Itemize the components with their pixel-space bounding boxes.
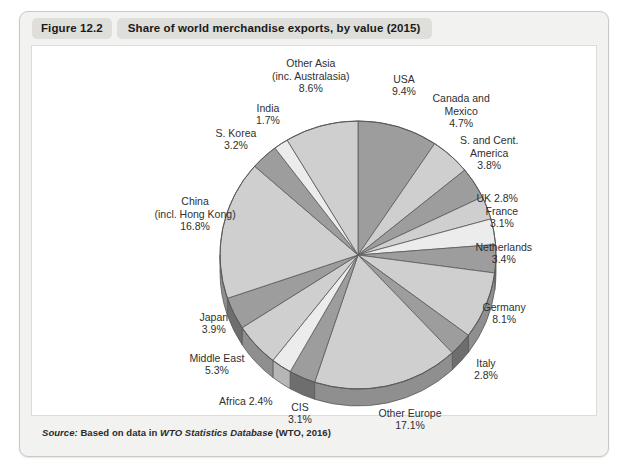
pie-label-other-asia: Other Asia(inc. Australasia)8.6% <box>272 57 350 95</box>
source-prefix: Source: <box>42 427 78 438</box>
pie-label-line: America <box>460 147 518 160</box>
figure-title: Share of world merchandise exports, by v… <box>117 18 432 39</box>
pie-label-line: Africa 2.4% <box>219 395 273 408</box>
pie-label-line: 9.4% <box>392 85 416 98</box>
pie-label-line: 17.1% <box>379 419 442 432</box>
pie-top-faces <box>220 121 496 389</box>
pie-label-line: 3.1% <box>486 217 519 230</box>
pie-label-line: 16.8% <box>155 220 236 233</box>
pie-label-line: 5.3% <box>190 364 245 377</box>
pie-label-line: 3.8% <box>460 159 518 172</box>
pie-label-line: Germany <box>483 301 526 314</box>
pie-label-line: France <box>486 205 519 218</box>
pie-label-italy: Italy2.8% <box>474 357 498 382</box>
pie-label-other-europe: Other Europe17.1% <box>379 407 442 432</box>
figure-panel: Figure 12.2 Share of world merchandise e… <box>19 11 609 457</box>
pie-label-line: UK 2.8% <box>477 192 518 205</box>
source-text-after: (WTO, 2016) <box>276 427 331 438</box>
figure-header: Figure 12.2 Share of world merchandise e… <box>20 12 608 44</box>
pie-label-line: Middle East <box>190 352 245 365</box>
pie-label-line: Canada and <box>433 92 490 105</box>
pie-label-line: 3.4% <box>476 253 533 266</box>
pie-label-cis: CIS3.1% <box>288 401 312 426</box>
pie-label-china: China(incl. Hong Kong)16.8% <box>155 195 236 233</box>
pie-label-s-korea: S. Korea3.2% <box>216 127 257 152</box>
source-text-before: Based on data in <box>80 427 157 438</box>
pie-label-france: France3.1% <box>486 205 519 230</box>
pie-label-line: CIS <box>288 401 312 414</box>
pie-label-line: Other Asia <box>272 57 350 70</box>
figure-number-badge: Figure 12.2 <box>32 18 112 39</box>
pie-label-line: 8.6% <box>272 82 350 95</box>
pie-label-line: 4.7% <box>433 117 490 130</box>
pie-label-line: (inc. Australasia) <box>272 70 350 83</box>
pie-label-africa: Africa 2.4% <box>219 395 273 408</box>
pie-label-germany: Germany8.1% <box>483 301 526 326</box>
pie-chart <box>32 46 598 417</box>
pie-label-line: USA <box>392 73 416 86</box>
source-note: Source: Based on data in WTO Statistics … <box>42 427 331 438</box>
pie-label-line: Japan <box>200 311 229 324</box>
pie-label-line: 8.1% <box>483 313 526 326</box>
pie-label-line: 3.9% <box>200 323 229 336</box>
pie-label-s-cent-america: S. and Cent.America3.8% <box>460 134 518 172</box>
pie-label-line: 1.7% <box>256 114 280 127</box>
pie-label-line: (incl. Hong Kong) <box>155 208 236 221</box>
pie-label-line: Other Europe <box>379 407 442 420</box>
pie-label-india: India1.7% <box>256 102 280 127</box>
pie-label-netherlands: Netherlands3.4% <box>476 241 533 266</box>
source-publication: WTO Statistics Database <box>160 427 273 438</box>
pie-label-usa: USA9.4% <box>392 73 416 98</box>
pie-label-middle-east: Middle East5.3% <box>190 352 245 377</box>
pie-label-line: China <box>155 195 236 208</box>
pie-label-japan: Japan3.9% <box>200 311 229 336</box>
pie-label-line: Mexico <box>433 105 490 118</box>
pie-label-line: S. and Cent. <box>460 134 518 147</box>
pie-label-line: 2.8% <box>474 369 498 382</box>
pie-label-line: 3.2% <box>216 139 257 152</box>
pie-label-line: 3.1% <box>288 413 312 426</box>
pie-label-line: Netherlands <box>476 241 533 254</box>
pie-label-line: India <box>256 102 280 115</box>
pie-label-canada-mexico: Canada andMexico4.7% <box>433 92 490 130</box>
pie-label-line: S. Korea <box>216 127 257 140</box>
pie-label-uk: UK 2.8% <box>477 192 518 205</box>
pie-label-line: Italy <box>474 357 498 370</box>
chart-plot-area: USA9.4%Canada andMexico4.7%S. and Cent.A… <box>31 45 597 416</box>
